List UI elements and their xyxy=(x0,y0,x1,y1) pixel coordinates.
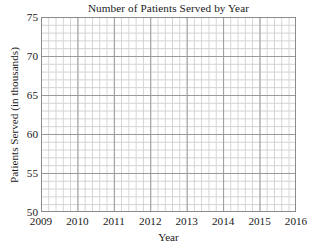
x-axis-title: Year xyxy=(41,230,296,244)
y-axis-title: Patients Served (in thousands) xyxy=(7,18,21,213)
chart-title: Number of Patients Served by Year xyxy=(41,1,296,15)
x-tick-label: 2016 xyxy=(273,214,316,228)
y-axis-title-container: Patients Served (in thousands) xyxy=(7,18,21,213)
chart-container: Number of Patients Served by Year 75 70 … xyxy=(0,0,316,248)
x-axis-tick-labels: 2009 2010 2011 2012 2013 2014 2015 2016 xyxy=(41,214,296,230)
major-gridlines xyxy=(42,18,295,211)
plot-area xyxy=(41,17,296,212)
